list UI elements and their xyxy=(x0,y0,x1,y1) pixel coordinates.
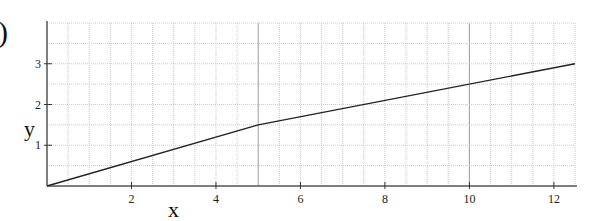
x-tick-label: 6 xyxy=(297,192,303,206)
x-tick-label: 8 xyxy=(382,192,388,206)
x-tick-label: 12 xyxy=(548,192,560,206)
panel-label: ) xyxy=(0,15,8,49)
y-tick-label: 2 xyxy=(35,98,41,112)
y-tick-label: 3 xyxy=(35,57,41,71)
ticks: 24681012123 xyxy=(35,57,560,206)
axes xyxy=(47,21,577,186)
x-tick-label: 10 xyxy=(463,192,475,206)
line-chart: ) 24681012123 x y xyxy=(0,0,591,221)
x-tick-label: 4 xyxy=(213,192,219,206)
y-axis-label: y xyxy=(24,116,35,141)
x-tick-label: 2 xyxy=(128,192,134,206)
grid xyxy=(47,23,575,186)
y-tick-label: 1 xyxy=(35,138,41,152)
x-axis-label: x xyxy=(168,197,179,221)
